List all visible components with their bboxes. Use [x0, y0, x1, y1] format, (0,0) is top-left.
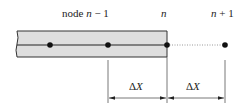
label-node-n: n [161, 7, 167, 19]
label-node-n-plus-1: n + 1 [211, 7, 234, 19]
node-dot-n-plus-1 [222, 42, 228, 48]
diagram-canvas [0, 0, 247, 111]
arrow-icon [160, 96, 166, 100]
arrow-icon [168, 96, 174, 100]
node-dot-n-minus-1 [105, 42, 111, 48]
node-dot-n [164, 42, 170, 48]
arrow-icon [109, 96, 115, 100]
label-node-n-minus-1: node n − 1 [62, 7, 109, 19]
rod-body [16, 31, 167, 57]
arrow-icon [218, 96, 224, 100]
label-delta-x-left: ΔX [129, 80, 143, 92]
node-dot-n-minus-2 [47, 42, 53, 48]
label-delta-x-right: ΔX [186, 80, 200, 92]
